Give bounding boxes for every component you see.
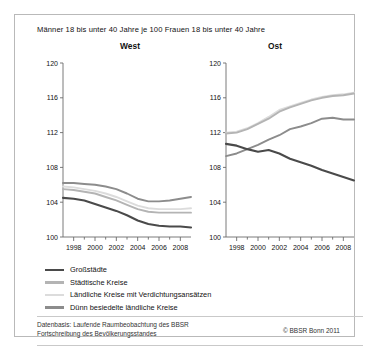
footer-divider-top — [37, 316, 363, 317]
legend-swatch-grossstaedte — [45, 269, 64, 272]
figure-frame: Männer 18 bis unter 40 Jahre je 100 Frau… — [14, 14, 355, 337]
panel-title-west: West — [75, 41, 185, 51]
svg-text:1998: 1998 — [229, 244, 245, 251]
svg-text:120: 120 — [209, 60, 221, 67]
svg-text:112: 112 — [210, 129, 221, 136]
svg-text:116: 116 — [210, 94, 221, 101]
legend-label-grossstaedte: Großstädte — [70, 266, 107, 273]
source-note-line1: Datenbasis: Laufende Raumbeobachtung des… — [37, 320, 189, 329]
svg-text:104: 104 — [209, 199, 221, 206]
legend-swatch-laendliche-verdichtung — [45, 294, 64, 297]
source-note: Datenbasis: Laufende Raumbeobachtung des… — [37, 320, 189, 339]
figure-title: Männer 18 bis unter 40 Jahre je 100 Frau… — [37, 25, 265, 34]
svg-text:108: 108 — [46, 164, 58, 171]
svg-text:2006: 2006 — [314, 244, 330, 251]
legend-swatch-duenn-besiedelt — [45, 306, 64, 309]
legend-label-staedtische-kreise: Städtische Kreise — [70, 279, 128, 286]
legend-item: Ländliche Kreise mit Verdichtungsansätze… — [45, 289, 345, 301]
svg-text:2002: 2002 — [272, 244, 288, 251]
svg-text:2008: 2008 — [173, 244, 189, 251]
svg-text:112: 112 — [47, 129, 58, 136]
svg-text:1998: 1998 — [66, 244, 82, 251]
chart-west: 1001041081121161201998200020022004200620… — [37, 59, 197, 259]
source-note-line2: Fortschreibung des Bevölkerungsstandes — [37, 329, 189, 338]
panel-title-ost: Ost — [220, 41, 330, 51]
legend-swatch-staedtische-kreise — [45, 281, 64, 284]
svg-text:104: 104 — [46, 199, 58, 206]
legend-label-laendliche-verdichtung: Ländliche Kreise mit Verdichtungsansätze… — [70, 291, 211, 298]
legend-item: Großstädte — [45, 264, 345, 276]
legend-item: Dünn besiedelte ländliche Kreise — [45, 301, 345, 313]
footer-divider-bottom — [37, 345, 363, 346]
svg-text:100: 100 — [209, 234, 221, 241]
svg-text:120: 120 — [46, 60, 58, 67]
svg-text:2004: 2004 — [293, 244, 309, 251]
svg-text:2002: 2002 — [109, 244, 125, 251]
svg-text:116: 116 — [47, 94, 58, 101]
svg-text:2008: 2008 — [336, 244, 352, 251]
legend-label-duenn-besiedelt: Dünn besiedelte ländliche Kreise — [70, 304, 178, 311]
svg-text:2006: 2006 — [151, 244, 167, 251]
svg-text:108: 108 — [209, 164, 221, 171]
chart-ost: 1001041081121161201998200020022004200620… — [200, 59, 360, 259]
legend-item: Städtische Kreise — [45, 276, 345, 288]
svg-text:2000: 2000 — [87, 244, 103, 251]
svg-text:2004: 2004 — [130, 244, 146, 251]
svg-text:2000: 2000 — [250, 244, 266, 251]
copyright-note: © BBSR Bonn 2011 — [283, 327, 340, 334]
chart-legend: Großstädte Städtische Kreise Ländliche K… — [45, 264, 345, 314]
svg-text:100: 100 — [46, 234, 58, 241]
